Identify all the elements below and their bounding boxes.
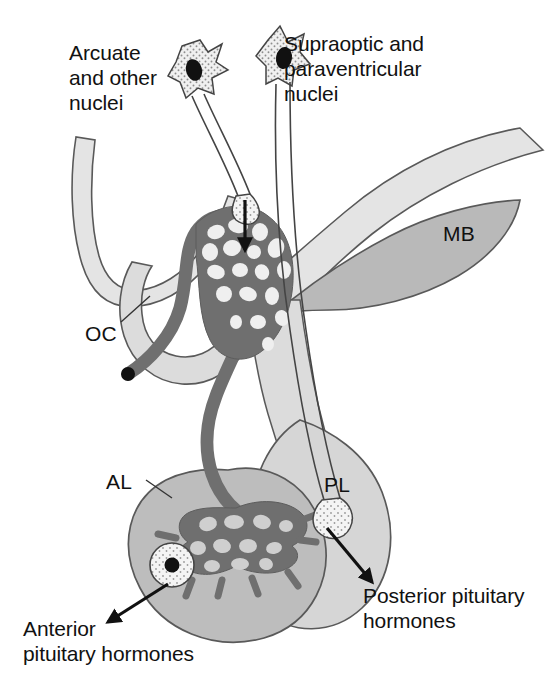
anterior-pituitary-cell <box>150 543 194 587</box>
label-arcuate-and-other-nuclei: Arcuate and other nuclei <box>69 40 157 115</box>
label-optic-chiasm: OC <box>85 322 117 345</box>
label-posterior-lobe: PL <box>324 473 350 496</box>
anterior-cell-nucleus <box>165 558 180 573</box>
arcuate-neuron <box>168 40 259 224</box>
label-anterior-pituitary-hormones: Anterior pituitary hormones <box>23 616 194 666</box>
figure-root: Arcuate and other nuclei Supraoptic and … <box>0 0 558 687</box>
arcuate-neuron-axon <box>192 94 250 196</box>
label-anterior-lobe: AL <box>106 470 132 493</box>
vessel-end-dot <box>121 367 135 381</box>
label-supraoptic-and-paraventricular-nuclei: Supraoptic and paraventricular nuclei <box>284 31 424 106</box>
label-mammillary-body: MB <box>443 222 475 245</box>
label-posterior-pituitary-hormones: Posterior pituitary hormones <box>363 583 525 633</box>
supraoptic-axon-terminal <box>313 498 352 538</box>
